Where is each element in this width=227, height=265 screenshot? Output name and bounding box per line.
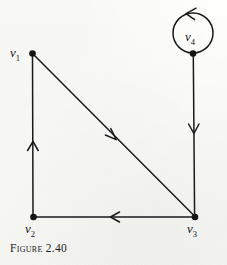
vertex-dot-v4[interactable] xyxy=(190,50,197,57)
vertex-label-v3: v3 xyxy=(187,222,197,238)
vertex-label-v4: v4 xyxy=(185,30,195,46)
arrowhead-v1-to-v3 xyxy=(105,129,116,140)
arrowhead-self-loop-v4 xyxy=(186,8,196,19)
vertex-dot-v2[interactable] xyxy=(30,214,37,221)
vertex-label-v2: v2 xyxy=(25,222,35,238)
edge-v4-to-v3 xyxy=(193,55,194,215)
vertex-dot-v3[interactable] xyxy=(192,214,199,221)
edge-v2-to-v1 xyxy=(33,55,34,215)
vertex-label-v1: v1 xyxy=(10,46,20,62)
figure-container: v1 v2 v3 v4 Figure 2.40 xyxy=(0,0,227,265)
figure-caption: Figure 2.40 xyxy=(10,242,67,254)
vertex-dot-v1[interactable] xyxy=(29,50,36,57)
